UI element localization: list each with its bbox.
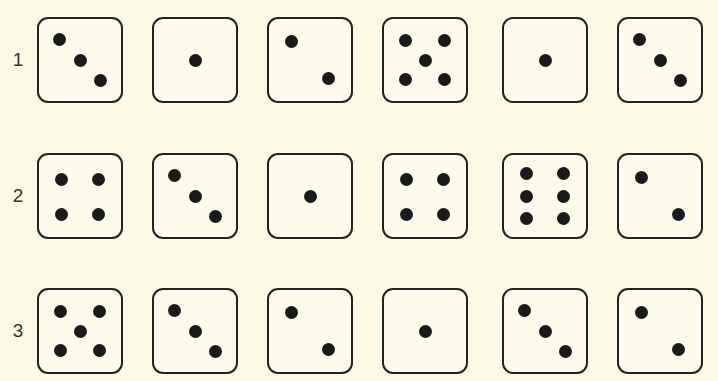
die-pip — [54, 344, 67, 357]
die-pip — [438, 34, 451, 47]
die-pip — [635, 171, 648, 184]
die-pip — [419, 325, 432, 338]
die-pip — [209, 345, 222, 358]
die-pip — [672, 208, 685, 221]
die-pip — [633, 33, 646, 46]
die-pip — [437, 173, 450, 186]
die-pip — [322, 343, 335, 356]
die-pip — [209, 210, 222, 223]
die-pip — [539, 325, 552, 338]
die-pip — [54, 305, 67, 318]
row-label-3: 3 — [8, 320, 28, 342]
die-row2-col2 — [152, 153, 238, 239]
die-pip — [189, 190, 202, 203]
die-pip — [285, 306, 298, 319]
die-row1-col2 — [152, 17, 238, 103]
die-pip — [74, 54, 87, 67]
die-pip — [437, 208, 450, 221]
die-row3-col5 — [502, 288, 588, 374]
die-pip — [93, 305, 106, 318]
die-row3-col3 — [267, 288, 353, 374]
die-pip — [93, 344, 106, 357]
die-pip — [55, 208, 68, 221]
die-row1-col1 — [37, 17, 123, 103]
die-pip — [672, 343, 685, 356]
die-row2-col4 — [382, 153, 468, 239]
die-pip — [635, 306, 648, 319]
die-pip — [168, 304, 181, 317]
die-row3-col2 — [152, 288, 238, 374]
die-pip — [189, 54, 202, 67]
die-pip — [55, 173, 68, 186]
die-pip — [399, 73, 412, 86]
die-pip — [94, 74, 107, 87]
die-pip — [557, 167, 570, 180]
die-pip — [400, 208, 413, 221]
die-pip — [74, 325, 87, 338]
die-pip — [520, 167, 533, 180]
die-pip — [304, 190, 317, 203]
die-pip — [559, 345, 572, 358]
die-row3-col6 — [617, 288, 703, 374]
die-pip — [557, 212, 570, 225]
die-pip — [539, 54, 552, 67]
die-pip — [53, 33, 66, 46]
die-pip — [557, 190, 570, 203]
die-row2-col3 — [267, 153, 353, 239]
die-row1-col3 — [267, 17, 353, 103]
die-pip — [518, 304, 531, 317]
die-pip — [419, 54, 432, 67]
die-pip — [322, 72, 335, 85]
die-pip — [92, 173, 105, 186]
die-row2-col5 — [502, 153, 588, 239]
die-pip — [674, 74, 687, 87]
row-label-1: 1 — [8, 49, 28, 71]
die-row3-col4 — [382, 288, 468, 374]
die-pip — [92, 208, 105, 221]
die-row1-col6 — [617, 17, 703, 103]
die-row3-col1 — [37, 288, 123, 374]
die-pip — [654, 54, 667, 67]
die-pip — [520, 190, 533, 203]
die-row2-col1 — [37, 153, 123, 239]
die-pip — [189, 325, 202, 338]
row-label-2: 2 — [8, 185, 28, 207]
die-pip — [400, 173, 413, 186]
die-pip — [168, 169, 181, 182]
die-pip — [520, 212, 533, 225]
die-pip — [438, 73, 451, 86]
die-pip — [285, 35, 298, 48]
die-row2-col6 — [617, 153, 703, 239]
die-row1-col4 — [382, 17, 468, 103]
die-pip — [399, 34, 412, 47]
die-row1-col5 — [502, 17, 588, 103]
